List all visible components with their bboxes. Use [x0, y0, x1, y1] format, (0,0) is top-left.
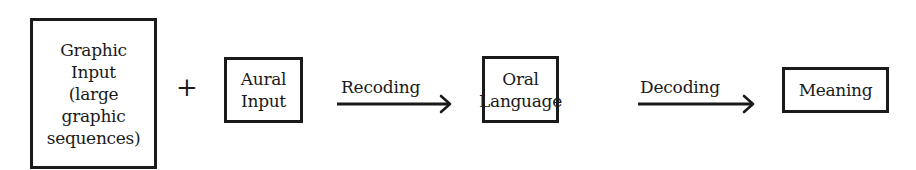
- meaning-box: Meaning: [782, 67, 889, 113]
- graphic-input-line-3: (large: [69, 83, 118, 105]
- oral-language-box: Oral Language: [482, 56, 559, 123]
- graphic-input-line-5: sequences): [47, 127, 141, 149]
- graphic-input-line-1: Graphic: [60, 39, 127, 61]
- meaning-line-1: Meaning: [799, 79, 873, 101]
- decoding-arrow: Decoding: [638, 76, 758, 116]
- oral-language-line-2: Language: [479, 90, 562, 112]
- graphic-input-line-2: Input: [71, 61, 116, 83]
- graphic-input-line-4: graphic: [62, 105, 126, 127]
- aural-input-line-1: Aural: [241, 68, 286, 90]
- right-arrow-icon: [638, 94, 758, 114]
- plus-operator: +: [176, 72, 198, 102]
- recoding-arrow: Recoding: [337, 76, 455, 116]
- right-arrow-icon: [337, 94, 455, 114]
- graphic-input-box: Graphic Input (large graphic sequences): [30, 18, 157, 169]
- aural-input-box: Aural Input: [224, 57, 303, 123]
- aural-input-line-2: Input: [241, 90, 286, 112]
- oral-language-line-1: Oral: [502, 68, 538, 90]
